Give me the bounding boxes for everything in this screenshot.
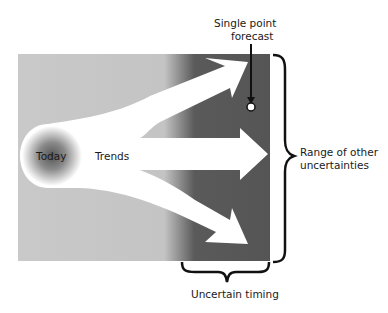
today-label: Today: [36, 150, 66, 163]
uncertain-timing-label: Uncertain timing: [191, 288, 279, 301]
range-label-1: Range of other: [300, 146, 378, 159]
single-point-forecast-label-1: Single point: [214, 17, 276, 30]
range-label-2: uncertainties: [300, 159, 369, 172]
single-point-forecast-marker: [247, 103, 255, 111]
trends-label: Trends: [95, 150, 129, 163]
timing-brace: [182, 262, 269, 282]
single-point-forecast-label-2: forecast: [231, 30, 273, 43]
range-brace: [273, 55, 294, 262]
